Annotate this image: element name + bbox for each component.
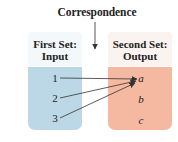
arrow-3-to-a-icon: [60, 83, 135, 118]
arrow-2-to-a-icon: [60, 81, 136, 98]
mapping-arrows: [60, 78, 137, 118]
arrows-layer: [0, 0, 178, 142]
arrow-1-to-a-icon: [60, 78, 137, 79]
